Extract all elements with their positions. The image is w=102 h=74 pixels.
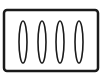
four-ellipses-icon [0, 0, 102, 74]
frame-icon-svg [0, 0, 102, 74]
frame-rect [4, 10, 98, 71]
